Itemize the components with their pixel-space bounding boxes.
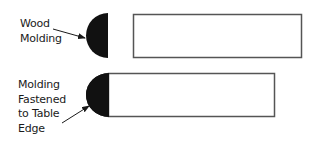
molding-diagram: Wood Molding Molding Fastened to Table E… [0,0,320,146]
fastened-molding-arrow-icon [62,106,89,123]
bottom-assembly [62,73,275,123]
label-line: Edge [18,122,66,137]
label-line: Fastened [18,93,66,108]
label-line: Wood [20,17,62,32]
label-line: Molding [18,78,66,93]
top-assembly [53,13,302,58]
table-edge-board-rectangle [109,74,275,117]
molding-fastened-label: Molding Fastened to Table Edge [18,78,66,136]
wood-molding-label: Wood Molding [20,17,62,46]
label-line: to Table [18,107,66,122]
wood-molding-half-circle [86,13,108,58]
label-line: Molding [20,32,62,47]
table-board-rectangle [134,15,302,58]
fastened-molding-fill-overlay [86,73,109,117]
